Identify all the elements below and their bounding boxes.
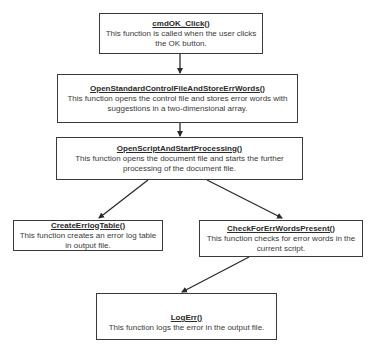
node-title: OpenScriptAndStartProcessing() bbox=[59, 144, 300, 154]
node-desc-line: This function opens the document file an… bbox=[59, 154, 300, 164]
node-desc-line: processing of the document file. bbox=[59, 164, 300, 174]
node-desc-line: current script. bbox=[202, 244, 360, 254]
node-desc-line: suggestions in a two-dimensional array. bbox=[60, 104, 295, 114]
edge-b3-b5 bbox=[207, 180, 282, 218]
node-desc-line: This function creates an error log table bbox=[16, 231, 160, 241]
node-open-standard-control-file: OpenStandardControlFileAndStoreErrWords(… bbox=[57, 74, 298, 123]
node-log-err: LogErr() This function logs the error in… bbox=[96, 293, 277, 340]
edge-b5-b6 bbox=[182, 257, 249, 292]
node-create-errlog-table: CreateErrlogTable() This function create… bbox=[13, 220, 163, 251]
node-title: OpenStandardControlFileAndStoreErrWords(… bbox=[60, 84, 295, 94]
node-desc-line: This function opens the control file and… bbox=[60, 94, 295, 104]
node-open-script-and-start-processing: OpenScriptAndStartProcessing() This func… bbox=[56, 137, 303, 180]
node-cmdok-click: cmdOK_Click() This function is called wh… bbox=[99, 13, 263, 54]
node-title: CreateErrlogTable() bbox=[16, 221, 160, 231]
node-title: CheckForErrWordsPresent() bbox=[202, 224, 360, 234]
node-desc-line: in output file. bbox=[16, 241, 160, 251]
edge-b3-b4 bbox=[99, 180, 148, 218]
node-title: LogErr() bbox=[99, 313, 274, 323]
node-desc-line: This function logs the error in the outp… bbox=[99, 323, 274, 333]
node-check-for-err-words-present: CheckForErrWordsPresent() This function … bbox=[199, 220, 363, 257]
node-desc-line: This function is called when the user cl… bbox=[102, 29, 260, 39]
node-title: cmdOK_Click() bbox=[102, 19, 260, 29]
node-desc-line: the OK button. bbox=[102, 39, 260, 49]
node-desc-line: This function checks for error words in … bbox=[202, 234, 360, 244]
